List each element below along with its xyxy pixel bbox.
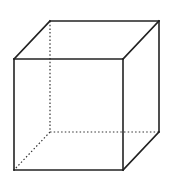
visible-edges bbox=[14, 21, 159, 170]
edge-back-bottom-right-to-front-bottom-right bbox=[123, 132, 159, 170]
hidden-edge-back-bottom-left-to-front-bottom-left bbox=[14, 132, 50, 170]
cube-diagram bbox=[0, 0, 173, 187]
cube-wireframe bbox=[0, 0, 173, 187]
edge-back-top-right-to-front-top-right bbox=[123, 21, 159, 59]
edge-front-top-left-to-back-top-left bbox=[14, 21, 50, 59]
